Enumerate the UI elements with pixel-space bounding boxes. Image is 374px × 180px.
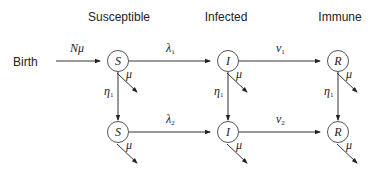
birth-rate-label: Nμ [69,41,84,55]
death-label-r1: μ [345,67,352,81]
node-s1: S [108,51,129,72]
eta-s-label: η1 [104,84,114,99]
svg-text:R: R [333,54,342,68]
svg-text:S: S [115,54,121,68]
node-s2: S [108,122,129,143]
death-label-s1: μ [125,67,132,81]
nu1-label: ν1 [276,41,285,56]
node-i2: I [218,122,239,143]
lambda1-label: λ1 [165,41,175,56]
node-r1: R [328,51,349,72]
death-label-i1: μ [235,67,242,81]
eta-r-label: η1 [324,84,334,99]
lambda2-label: λ2 [165,112,175,127]
nu2-label: ν2 [276,112,285,127]
node-i1: I [218,51,239,72]
death-label-r2: μ [345,138,352,152]
node-r2: R [328,122,349,143]
svg-text:R: R [333,125,342,139]
sir-compartment-diagram: Susceptible Infected Immune Birth Nμ λ1 … [0,0,374,180]
death-label-i2: μ [235,138,242,152]
column-header-immune: Immune [318,10,362,24]
svg-text:S: S [115,125,121,139]
birth-label: Birth [13,55,38,69]
column-header-susceptible: Susceptible [88,10,150,24]
death-label-s2: μ [125,138,132,152]
eta-i-label: η1 [214,84,224,99]
column-header-infected: Infected [205,10,248,24]
